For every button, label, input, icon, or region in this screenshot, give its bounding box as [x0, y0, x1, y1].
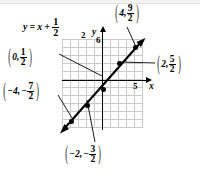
close-paren: ): [178, 54, 181, 75]
fraction-denominator: 2: [27, 91, 34, 102]
page-top-rule: [0, 0, 200, 4]
point-y-fraction: 12: [20, 48, 27, 68]
point-x-value: 2,: [161, 59, 168, 69]
fraction-numerator: 7: [27, 82, 34, 92]
point-x-value: 0,: [12, 52, 19, 62]
point-label-4-nine-halves: (4,92): [113, 4, 140, 24]
fraction-denominator: 2: [127, 13, 134, 24]
equation-fraction: 12: [52, 17, 59, 38]
point-y-fraction: 72: [27, 82, 34, 102]
fraction-numerator: 1: [20, 48, 27, 58]
fraction-denominator: 2: [20, 57, 27, 68]
point-y-fraction: 92: [127, 4, 134, 24]
fraction-denominator: 2: [169, 64, 176, 75]
open-paren: (: [3, 81, 6, 102]
open-paren: (: [65, 144, 68, 165]
close-paren: ): [29, 47, 32, 68]
equation-equals: =: [29, 21, 35, 32]
equation-fraction-numerator: 1: [52, 17, 59, 27]
point-y-fraction: 52: [169, 55, 176, 75]
fraction-numerator: 9: [127, 4, 134, 14]
x-axis-tick-5: 5: [133, 81, 138, 91]
equation-variable: x: [37, 21, 42, 32]
coordinate-graph-figure: y x 6 5 2 y=x+12 (0,12): [0, 0, 200, 176]
point-x-value: 4,: [119, 8, 126, 18]
point-y-sign: −: [22, 86, 27, 96]
fraction-numerator: 3: [89, 145, 96, 155]
equation-plus: +: [44, 21, 50, 32]
point-label-0-one-half: (0,12): [6, 48, 33, 68]
point-y-fraction: 32: [89, 145, 96, 165]
grid-top-tick-2: 2: [81, 30, 86, 40]
y-axis-arrow-icon: [100, 26, 106, 32]
x-axis-label: x: [149, 81, 154, 91]
close-paren: ): [136, 3, 139, 24]
y-axis: [102, 31, 103, 130]
equation-fraction-denominator: 2: [52, 27, 59, 38]
open-paren: (: [8, 47, 11, 68]
open-paren: (: [157, 54, 160, 75]
point-label-neg4-neg-seven-halves: (−4,−72): [1, 82, 41, 102]
point-label-neg2-neg-three-halves: (−2,−32): [63, 145, 103, 165]
point-x-value: −4,: [7, 86, 20, 96]
fraction-denominator: 2: [89, 154, 96, 165]
y-axis-tick-6: 6: [96, 35, 101, 45]
close-paren: ): [99, 144, 102, 165]
close-paren: ): [37, 81, 40, 102]
equation-label: y=x+12: [23, 17, 60, 38]
point-y-sign: −: [84, 149, 89, 159]
equation-lhs: y: [23, 21, 27, 32]
fraction-numerator: 5: [169, 55, 176, 65]
open-paren: (: [115, 3, 118, 24]
point-label-2-five-halves: (2,52): [155, 55, 182, 75]
point-x-value: −2,: [69, 149, 82, 159]
